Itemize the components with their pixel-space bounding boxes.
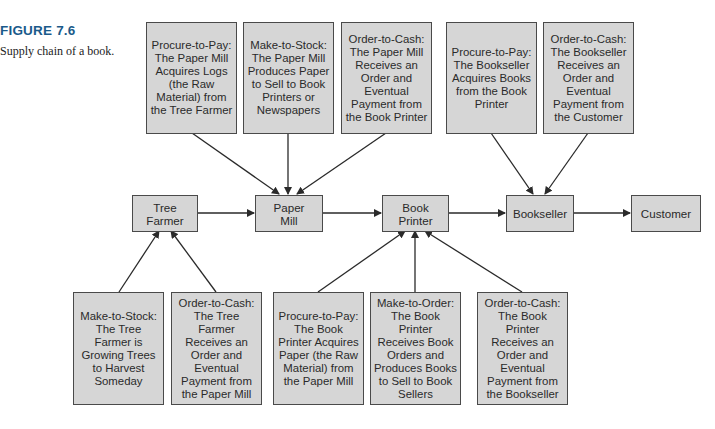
node-bookseller: Bookseller	[506, 195, 574, 232]
node-paper-mill: Paper Mill	[255, 195, 323, 232]
node-customer: Customer	[631, 195, 701, 232]
process-box-paper-mill-order-to-cash: Order-to-Cash: The Paper Mill Receives a…	[341, 22, 432, 134]
node-book-printer: Book Printer	[382, 195, 449, 232]
process-box-paper-mill-make-to-stock: Make-to-Stock: The Paper Mill Produces P…	[243, 22, 334, 134]
process-box-bookseller-order-to-cash: Order-to-Cash: The Bookseller Receives a…	[543, 22, 634, 134]
node-tree-farmer: Tree Farmer	[132, 195, 198, 232]
process-box-book-printer-procure-to-pay: Procure-to-Pay: The Book Printer Acquire…	[273, 292, 364, 405]
process-box-book-printer-order-to-cash: Order-to-Cash: The Book Printer Receives…	[477, 292, 568, 405]
process-box-paper-mill-procure-to-pay: Procure-to-Pay: The Paper Mill Acquires …	[146, 22, 237, 134]
process-box-bookseller-procure-to-pay: Procure-to-Pay: The Bookseller Acquires …	[446, 22, 537, 134]
process-box-book-printer-make-to-order: Make-to-Order: The Book Printer Receives…	[370, 292, 461, 405]
process-box-tree-farmer-order-to-cash: Order-to-Cash: The Tree Farmer Receives …	[171, 292, 262, 405]
process-box-tree-farmer-make-to-stock: Make-to-Stock: The Tree Farmer is Growin…	[73, 292, 164, 405]
